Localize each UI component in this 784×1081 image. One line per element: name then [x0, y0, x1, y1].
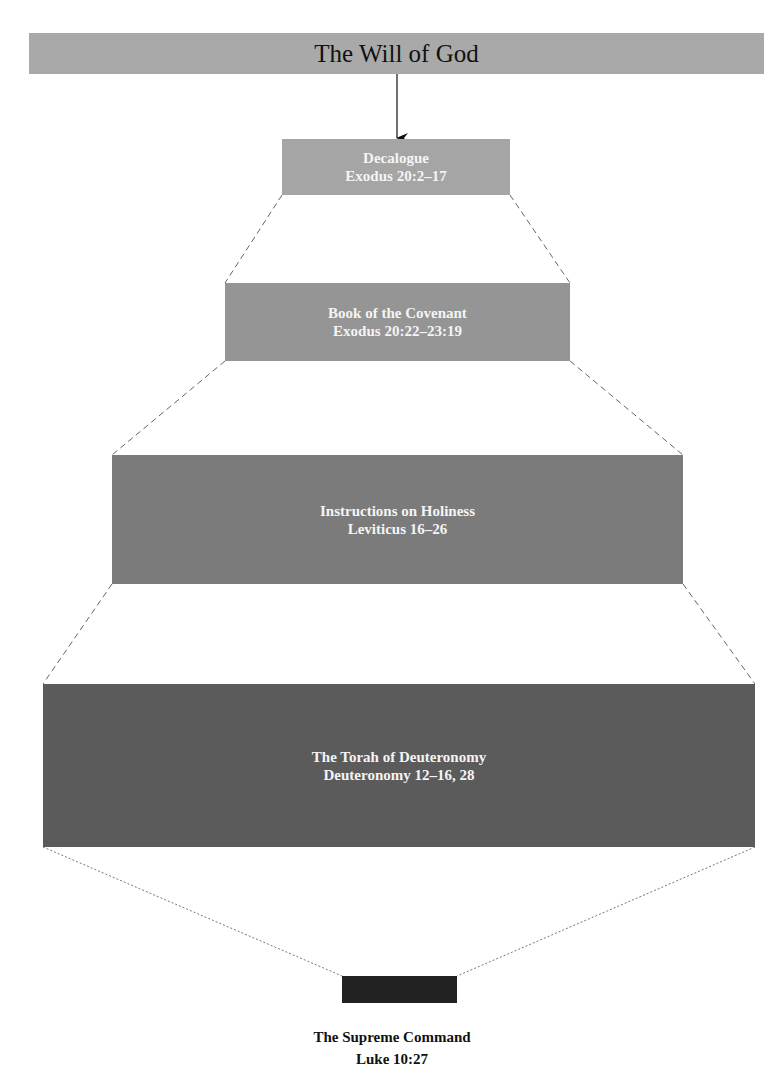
title-bar: The Will of God — [29, 33, 764, 74]
level-box-book-of-covenant: Book of the Covenant Exodus 20:22–23:19 — [225, 283, 570, 361]
level-name: Book of the Covenant — [328, 304, 467, 322]
level-name: Decalogue — [363, 149, 429, 167]
summary-name: The Supreme Command — [0, 1026, 784, 1048]
level-name: Instructions on Holiness — [320, 502, 475, 520]
level-name: The Torah of Deuteronomy — [312, 748, 486, 766]
diagram-title: The Will of God — [314, 40, 478, 68]
level-box-instructions-on-holiness: Instructions on Holiness Leviticus 16–26 — [112, 455, 683, 584]
level-reference: Exodus 20:22–23:19 — [333, 322, 462, 340]
level-reference: Exodus 20:2–17 — [345, 167, 446, 185]
summary-box — [342, 976, 457, 1003]
level-reference: Deuteronomy 12–16, 28 — [324, 766, 475, 784]
level-box-torah-of-deuteronomy: The Torah of Deuteronomy Deuteronomy 12–… — [43, 684, 755, 847]
summary-reference: Luke 10:27 — [0, 1048, 784, 1070]
summary-caption: The Supreme Command Luke 10:27 — [0, 1026, 784, 1070]
level-box-decalogue: Decalogue Exodus 20:2–17 — [282, 139, 510, 195]
level-reference: Leviticus 16–26 — [348, 520, 448, 538]
